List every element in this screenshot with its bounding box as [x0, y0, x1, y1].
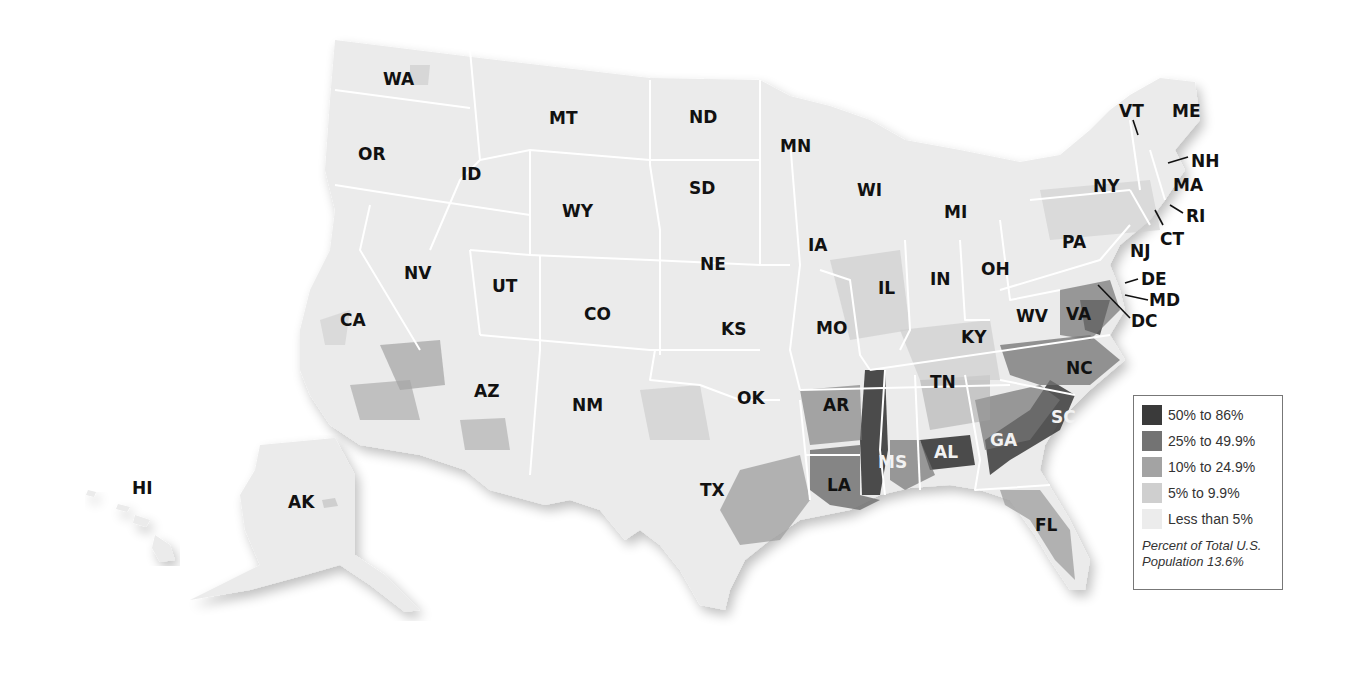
label-ky: KY — [961, 327, 987, 347]
alaska — [190, 438, 420, 612]
label-nj: NJ — [1130, 241, 1151, 261]
legend-swatch-25-49 — [1142, 431, 1162, 451]
label-al: AL — [934, 442, 958, 462]
hawaii — [86, 490, 175, 562]
label-ak: AK — [288, 492, 315, 512]
label-co: CO — [584, 304, 611, 324]
label-ct: CT — [1160, 229, 1184, 249]
label-mn: MN — [780, 136, 811, 156]
label-nv: NV — [404, 263, 432, 283]
label-tn: TN — [930, 372, 956, 392]
label-la: LA — [827, 475, 852, 495]
legend-item: 10% to 24.9% — [1142, 454, 1274, 480]
label-ut: UT — [492, 276, 518, 296]
label-id: ID — [461, 164, 481, 184]
label-md: MD — [1149, 290, 1180, 310]
label-nc: NC — [1066, 358, 1093, 378]
legend-swatch-10-24 — [1142, 457, 1162, 477]
legend-note-line1: Percent of Total U.S. — [1142, 538, 1274, 554]
label-wy: WY — [562, 201, 594, 221]
label-ma: MA — [1173, 175, 1204, 195]
label-ok: OK — [737, 388, 765, 408]
label-nd: ND — [689, 107, 717, 127]
label-dc: DC — [1131, 311, 1158, 331]
label-mo: MO — [816, 318, 847, 338]
label-in: IN — [930, 269, 951, 289]
label-wi: WI — [857, 180, 882, 200]
label-pa: PA — [1062, 232, 1087, 252]
label-hi: HI — [132, 478, 153, 498]
legend-swatch-50-86 — [1142, 405, 1162, 425]
legend-item: 25% to 49.9% — [1142, 428, 1274, 454]
label-mi: MI — [944, 202, 967, 222]
legend-label: Less than 5% — [1168, 511, 1253, 527]
legend-note: Percent of Total U.S. Population 13.6% — [1142, 538, 1274, 570]
label-nh: NH — [1191, 151, 1219, 171]
legend-swatch-5-9 — [1142, 483, 1162, 503]
legend-item: 5% to 9.9% — [1142, 480, 1274, 506]
label-ri: RI — [1186, 206, 1205, 226]
label-ne: NE — [700, 254, 726, 274]
label-wv: WV — [1016, 306, 1049, 326]
label-ia: IA — [808, 235, 828, 255]
label-fl: FL — [1035, 515, 1058, 535]
label-sd: SD — [689, 178, 715, 198]
label-va: VA — [1066, 304, 1092, 324]
label-vt: VT — [1119, 101, 1144, 121]
label-sc: SC — [1051, 407, 1076, 427]
legend-swatch-under-5 — [1142, 509, 1162, 529]
legend-note-line2: Population 13.6% — [1142, 554, 1274, 570]
label-wa: WA — [383, 69, 415, 89]
label-tx: TX — [700, 480, 725, 500]
label-ms: MS — [878, 452, 907, 472]
label-ca: CA — [340, 310, 366, 330]
legend-item: 50% to 86% — [1142, 402, 1274, 428]
legend-label: 25% to 49.9% — [1168, 433, 1255, 449]
label-ar: AR — [823, 395, 849, 415]
label-ga: GA — [990, 430, 1018, 450]
label-de: DE — [1141, 269, 1167, 289]
label-nm: NM — [572, 395, 603, 415]
legend-label: 50% to 86% — [1168, 407, 1244, 423]
label-me: ME — [1172, 101, 1201, 121]
label-ny: NY — [1093, 176, 1120, 196]
legend-label: 5% to 9.9% — [1168, 485, 1240, 501]
label-il: IL — [878, 278, 895, 298]
label-oh: OH — [981, 259, 1010, 279]
map-legend: 50% to 86% 25% to 49.9% 10% to 24.9% 5% … — [1133, 395, 1283, 590]
label-mt: MT — [549, 108, 578, 128]
label-ks: KS — [721, 319, 746, 339]
legend-item: Less than 5% — [1142, 506, 1274, 532]
label-or: OR — [358, 144, 386, 164]
label-az: AZ — [474, 381, 499, 401]
legend-label: 10% to 24.9% — [1168, 459, 1255, 475]
